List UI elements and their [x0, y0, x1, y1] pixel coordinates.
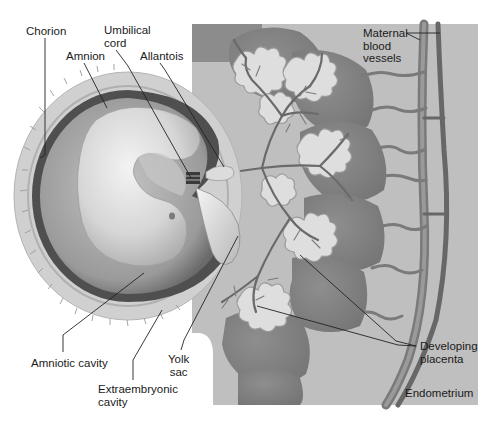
label-developing-placenta: Developing placenta — [420, 340, 478, 365]
umbilical-cord-shape — [186, 172, 200, 184]
label-umbilical-cord: Umbilical cord — [104, 24, 151, 49]
label-extraembryonic-cavity: Extraembryonic cavity — [98, 383, 178, 408]
implantation-diagram: Chorion Umbilical cord Amnion Allantois … — [0, 0, 503, 422]
label-allantois: Allantois — [140, 50, 183, 63]
label-chorion: Chorion — [26, 25, 66, 38]
label-maternal-blood-vessels: Maternal blood vessels — [363, 27, 408, 65]
embryo-shape — [77, 107, 200, 266]
leader-line-extraembryonic-cavity — [133, 310, 162, 380]
label-amnion: Amnion — [66, 50, 105, 63]
label-endometrium: Endometrium — [405, 387, 473, 400]
label-yolk-sac: Yolk sac — [168, 353, 189, 378]
label-amniotic-cavity: Amniotic cavity — [31, 357, 108, 370]
